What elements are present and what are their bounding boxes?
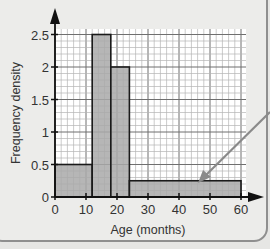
y-axis-label: Frequency density [9, 61, 23, 164]
x-tick-label: 50 [203, 202, 217, 217]
histogram-bar [111, 67, 130, 197]
histogram-chart: 010203040506000.511.522.5 Age (months) F… [0, 0, 270, 249]
histogram-bar [55, 165, 92, 198]
y-tick-label: 0.5 [31, 158, 49, 173]
histogram-bar [92, 35, 111, 198]
x-tick-label: 0 [51, 202, 58, 217]
x-axis-label: Age (months) [110, 223, 185, 237]
y-tick-label: 0 [42, 190, 49, 205]
y-tick-label: 1 [42, 125, 49, 140]
x-tick-label: 60 [234, 202, 248, 217]
y-tick-label: 1.5 [31, 93, 49, 108]
x-tick-label: 40 [172, 202, 186, 217]
x-tick-label: 10 [79, 202, 93, 217]
y-tick-label: 2.5 [31, 28, 49, 43]
histogram-bar [129, 181, 241, 197]
x-tick-label: 30 [141, 202, 155, 217]
x-tick-label: 20 [110, 202, 124, 217]
y-tick-label: 2 [42, 60, 49, 75]
